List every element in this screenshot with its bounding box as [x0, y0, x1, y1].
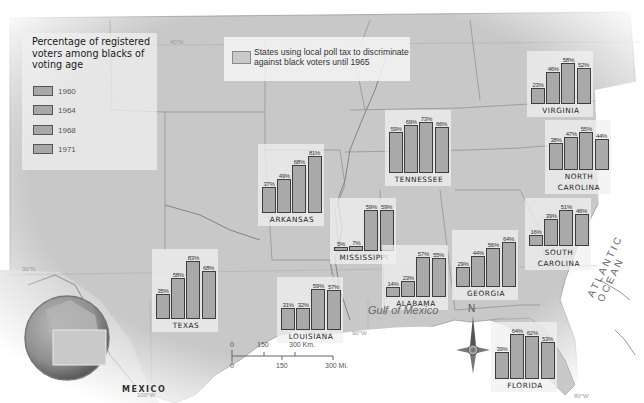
legend-swatch	[33, 125, 53, 135]
bar-1971: 46%	[575, 214, 589, 246]
legend-label: 1968	[58, 126, 76, 135]
bar-group: 16%39%51%46%	[529, 210, 590, 246]
bar-value-label: 7%	[352, 240, 360, 246]
legend-swatch	[33, 144, 53, 154]
state-label-line: FLORIDA	[495, 380, 555, 391]
bar-chart-al: 14%23%57%55%	[386, 257, 448, 297]
bar-value-label: 53%	[542, 336, 553, 342]
bar-value-label: 57%	[418, 251, 429, 257]
scale-km-150: 150	[257, 341, 269, 348]
bar-1968: 59%	[364, 210, 378, 251]
bar-1960: 37%	[262, 187, 276, 213]
poll-tax-swatch	[232, 51, 251, 64]
bar-1968: 59%	[311, 289, 325, 330]
bar-group: 23%46%58%52%	[531, 63, 592, 104]
bar-1960: 31%	[281, 308, 295, 330]
state-label-tx: TEXAS	[156, 320, 216, 331]
bar-chart-ar: 37%49%68%81%	[262, 156, 324, 213]
bar-1964: 47%	[564, 137, 578, 170]
scale-mi-0: 0	[230, 362, 234, 369]
legend-item-1971: 1971	[33, 144, 76, 154]
bar-value-label: 52%	[578, 62, 589, 68]
bar-value-label: 64%	[503, 236, 514, 242]
bar-1964: 64%	[510, 334, 524, 379]
compass-north-label: N	[468, 303, 475, 314]
poll-tax-label: States using local poll tax to discrimin…	[254, 47, 409, 67]
bar-1971: 44%	[595, 139, 609, 170]
bar-1960: 29%	[456, 267, 470, 287]
globe-inset	[25, 296, 109, 380]
bar-1971: 64%	[502, 242, 516, 287]
bar-value-label: 73%	[421, 116, 432, 122]
bar-value-label: 58%	[173, 272, 184, 278]
legend-swatch	[33, 105, 53, 115]
legend-swatch	[33, 86, 53, 96]
bar-1960: 16%	[529, 235, 543, 246]
bar-1968: 56%	[486, 248, 500, 287]
bar-1960: 14%	[386, 287, 400, 297]
bar-chart-tx: 35%58%83%68%	[156, 261, 218, 319]
gulf-of-mexico-label: Gulf of Mexico	[368, 304, 438, 316]
state-label-va: VIRGINIA	[531, 105, 591, 116]
legend-item-1968: 1968	[33, 125, 76, 135]
state-label-fl: FLORIDA	[495, 380, 555, 391]
bar-chart-ga: 29%44%56%64%	[456, 242, 518, 287]
bar-1964: 58%	[171, 278, 185, 319]
bar-group: 37%49%68%81%	[262, 156, 323, 213]
bar-value-label: 23%	[403, 275, 414, 281]
bar-value-label: 59%	[390, 126, 401, 132]
bar-1968: 73%	[419, 122, 433, 173]
poll-tax-legend: States using local poll tax to discrimin…	[224, 37, 410, 81]
bar-group: 31%32%59%57%	[281, 289, 342, 330]
bar-value-label: 5%	[337, 241, 345, 247]
state-label-ga: GEORGIA	[456, 288, 516, 299]
bar-1971: 68%	[202, 271, 216, 319]
bar-chart-la: 31%32%59%57%	[281, 289, 343, 330]
bar-1964: 44%	[471, 256, 485, 287]
state-label-sc: SOUTHCAROLINA	[529, 247, 589, 269]
bar-value-label: 47%	[566, 131, 577, 137]
state-label-line: TEXAS	[156, 320, 216, 331]
bar-group: 39%64%62%53%	[495, 334, 556, 379]
bar-chart-sc: 16%39%51%46%	[529, 210, 591, 246]
bar-1968: 62%	[525, 336, 539, 379]
bar-group: 29%44%56%64%	[456, 242, 517, 287]
bar-1971: 52%	[577, 68, 591, 104]
legend-label: 1960	[58, 87, 76, 96]
bar-value-label: 81%	[309, 150, 320, 156]
bar-value-label: 55%	[433, 252, 444, 258]
bar-1960: 59%	[389, 132, 403, 173]
state-label-tn: TENNESSEE	[389, 174, 449, 185]
bar-value-label: 46%	[548, 66, 559, 72]
bar-1960: 39%	[495, 352, 509, 379]
state-label-nc: NORTHCAROLINA	[549, 171, 609, 193]
bar-value-label: 64%	[512, 328, 523, 334]
bar-1960: 23%	[531, 88, 545, 104]
bar-chart-fl: 39%64%62%53%	[495, 334, 557, 379]
state-label-line: SOUTH	[529, 247, 589, 258]
bar-group: 38%47%55%44%	[549, 132, 610, 171]
bar-group: 35%58%83%68%	[156, 261, 217, 319]
bar-group: 59%69%73%66%	[389, 122, 450, 173]
lat-40-label: 40°N	[170, 39, 183, 45]
bar-value-label: 39%	[546, 213, 557, 219]
bar-1960: 35%	[156, 294, 170, 319]
bar-value-label: 31%	[282, 302, 293, 308]
bar-1968: 83%	[186, 261, 200, 319]
scale-km-0: 0	[230, 341, 234, 348]
bar-group: 14%23%57%55%	[386, 257, 447, 297]
bar-1960: 38%	[549, 143, 563, 170]
bar-value-label: 83%	[188, 255, 199, 261]
bar-1971: 66%	[435, 127, 449, 173]
bar-1971: 81%	[308, 156, 322, 213]
bar-1968: 58%	[561, 63, 575, 104]
bar-value-label: 57%	[328, 284, 339, 290]
bar-value-label: 49%	[279, 173, 290, 179]
bar-value-label: 68%	[203, 265, 214, 271]
bar-value-label: 59%	[366, 204, 377, 210]
bar-value-label: 66%	[436, 121, 447, 127]
state-label-line: GEORGIA	[456, 288, 516, 299]
bar-1964: 23%	[401, 281, 415, 297]
bar-chart-nc: 38%47%55%44%	[549, 132, 611, 171]
legend-title: Percentage of registered voters among bl…	[32, 36, 162, 71]
